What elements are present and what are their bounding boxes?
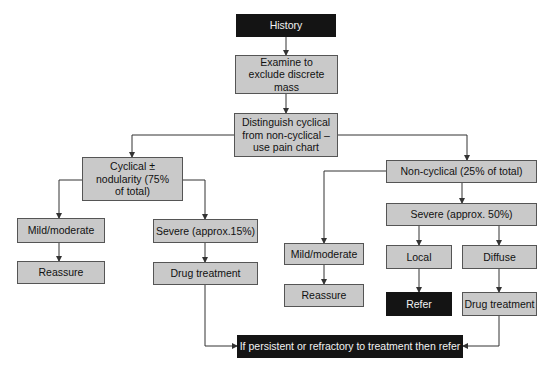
cyclical-mild-label: Mild/moderate	[28, 224, 95, 237]
examine-label: Examine to exclude discrete mass	[242, 56, 331, 94]
local-label: Local	[406, 251, 431, 264]
final-refer-label: If persistent or refractory to treatment…	[240, 340, 461, 353]
history-node: History	[236, 14, 336, 37]
cyclical-severe-label: Severe (approx.15%)	[156, 225, 255, 238]
cyclical-drug-node: Drug treatment	[153, 262, 258, 285]
final-refer-node: If persistent or refractory to treatment…	[237, 335, 463, 358]
refer-label: Refer	[406, 298, 432, 311]
noncyclical-severe-label: Severe (approx. 50%)	[410, 208, 512, 221]
diffuse-label: Diffuse	[483, 251, 516, 264]
cyclical-label: Cyclical ± nodularity (75% of total)	[95, 160, 170, 198]
local-node: Local	[386, 245, 452, 269]
noncyclical-node: Non-cyclical (25% of total)	[386, 160, 537, 183]
noncyclical-drug-label: Drug treatment	[464, 298, 534, 311]
cyclical-reassure-label: Reassure	[39, 266, 84, 279]
distinguish-label: Distinguish cyclical from non-cyclical –…	[239, 116, 333, 154]
examine-node: Examine to exclude discrete mass	[235, 55, 338, 94]
noncyclical-reassure-label: Reassure	[302, 289, 347, 302]
noncyclical-label: Non-cyclical (25% of total)	[401, 165, 523, 178]
noncyclical-reassure-node: Reassure	[284, 284, 364, 307]
noncyclical-severe-node: Severe (approx. 50%)	[386, 203, 537, 226]
cyclical-mild-node: Mild/moderate	[17, 218, 105, 243]
diffuse-node: Diffuse	[462, 245, 537, 269]
noncyclical-mild-node: Mild/moderate	[284, 243, 364, 265]
cyclical-node: Cyclical ± nodularity (75% of total)	[82, 157, 183, 201]
cyclical-drug-label: Drug treatment	[170, 267, 240, 280]
noncyclical-drug-node: Drug treatment	[462, 292, 537, 316]
noncyclical-mild-label: Mild/moderate	[291, 248, 358, 261]
refer-node: Refer	[386, 292, 452, 316]
cyclical-severe-node: Severe (approx.15%)	[153, 219, 258, 243]
cyclical-reassure-node: Reassure	[17, 261, 105, 284]
history-label: History	[270, 19, 303, 32]
distinguish-node: Distinguish cyclical from non-cyclical –…	[234, 113, 338, 157]
